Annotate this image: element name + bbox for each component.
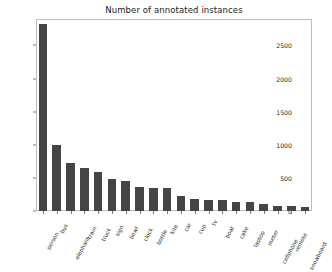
bar <box>108 179 117 211</box>
bar <box>52 145 61 211</box>
x-tick-mark <box>181 211 182 214</box>
bar <box>135 187 144 211</box>
bar <box>163 188 172 211</box>
bar <box>66 163 75 211</box>
x-tick-label: clock <box>150 215 162 231</box>
x-tick-mark <box>112 211 113 214</box>
x-tick-mark <box>278 211 279 214</box>
x-tick-mark <box>236 211 237 214</box>
x-tick-mark <box>209 211 210 214</box>
bar <box>190 199 199 211</box>
x-tick-mark <box>291 211 292 214</box>
chart-title: Number of annotated instances <box>36 5 312 15</box>
bar <box>246 202 255 211</box>
x-tick-label: tv <box>214 215 222 223</box>
x-tick-label: train <box>94 215 105 229</box>
x-tick-mark <box>71 211 72 214</box>
bar <box>218 200 227 211</box>
x-tick-label: bowl <box>136 215 147 229</box>
x-tick-mark <box>264 211 265 214</box>
bar <box>259 204 268 211</box>
x-tick-mark <box>126 211 127 214</box>
bar <box>177 196 186 211</box>
x-tick-label: snowboard <box>324 215 332 245</box>
bar <box>121 181 130 211</box>
bar <box>149 188 158 212</box>
x-tick-label: meter <box>276 215 289 233</box>
x-tick-mark <box>43 211 44 214</box>
x-tick-mark <box>140 211 141 214</box>
x-tick-label: cake <box>246 215 257 229</box>
x-tick-mark <box>305 211 306 214</box>
x-tick-mark <box>250 211 251 214</box>
plot-area <box>36 19 312 211</box>
x-tick-label: car <box>189 215 198 226</box>
x-tick-mark <box>167 211 168 214</box>
x-tick-mark <box>98 211 99 214</box>
x-tick-mark <box>222 211 223 214</box>
x-tick-mark <box>57 211 58 214</box>
x-tick-mark <box>153 211 154 214</box>
x-tick-label: sign <box>121 215 132 228</box>
bar <box>204 200 213 211</box>
bar <box>80 168 89 211</box>
x-tick-label: boat <box>232 215 243 229</box>
x-tick-mark <box>84 211 85 214</box>
bar <box>94 172 103 211</box>
bar <box>39 24 48 211</box>
x-tick-mark <box>195 211 196 214</box>
bar <box>232 202 241 211</box>
